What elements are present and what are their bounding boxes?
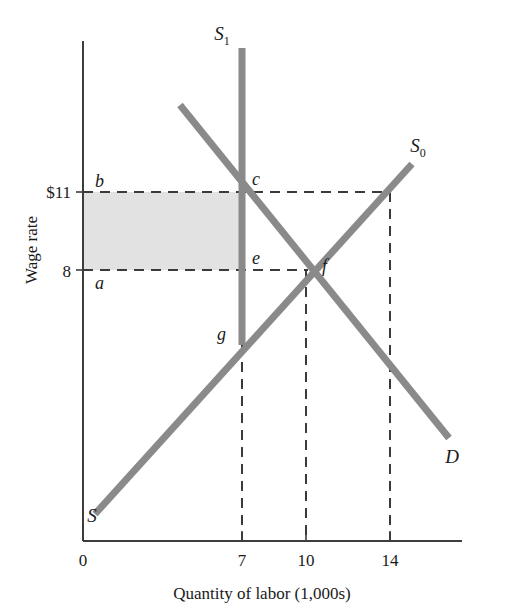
point-label-b: b: [95, 171, 104, 191]
x-axis-title: Quantity of labor (1,000s): [173, 584, 351, 603]
point-label-g: g: [217, 324, 226, 344]
demand-curve-d: [180, 105, 449, 438]
x-tick-label-14: 14: [382, 551, 400, 570]
chart-svg: $11 8 0 7 10 14 Wage rate Quantity of la…: [0, 0, 516, 610]
y-tick-label-11: $11: [46, 183, 71, 202]
labor-market-chart: $11 8 0 7 10 14 Wage rate Quantity of la…: [0, 0, 516, 610]
y-tick-label-8: 8: [63, 262, 72, 281]
point-label-a: a: [95, 273, 104, 293]
curve-label-d: D: [444, 446, 459, 467]
y-axis-title: Wage rate: [22, 216, 41, 284]
curve-label-s1: S1: [214, 23, 230, 48]
point-label-e: e: [252, 248, 260, 268]
point-label-c: c: [252, 169, 260, 189]
curve-label-s0: S0: [410, 135, 426, 160]
shaded-region-abce: [83, 192, 242, 270]
curve-label-supply-origin: S: [87, 505, 97, 526]
x-tick-label-10: 10: [298, 551, 315, 570]
x-tick-label-0: 0: [79, 551, 88, 570]
x-tick-label-7: 7: [238, 551, 247, 570]
